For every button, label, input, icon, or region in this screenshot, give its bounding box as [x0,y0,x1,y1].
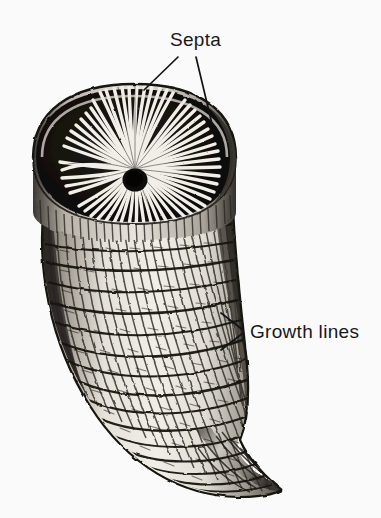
coral-figure: Septa Growth lines [0,0,381,518]
septa-label: Septa [170,29,221,50]
figure-canvas: Septa Growth lines [0,0,381,518]
growth-lines-label: Growth lines [250,321,359,342]
columella-core [125,171,143,187]
